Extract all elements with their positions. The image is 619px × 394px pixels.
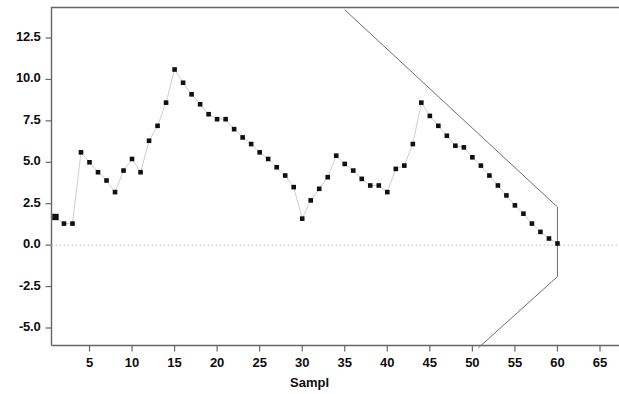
data-point-marker bbox=[402, 163, 407, 168]
data-point-marker bbox=[325, 175, 330, 180]
data-point-marker bbox=[394, 167, 399, 172]
data-point-marker bbox=[181, 80, 186, 85]
data-point-marker bbox=[453, 143, 458, 148]
data-point-marker bbox=[445, 133, 450, 138]
x-tick-label: 5 bbox=[70, 355, 110, 370]
x-tick-label: 65 bbox=[580, 355, 619, 370]
data-point-marker bbox=[479, 163, 484, 168]
data-point-marker bbox=[79, 150, 84, 155]
plot-frame bbox=[52, 8, 619, 346]
x-axis-title: Sampl bbox=[0, 375, 619, 390]
x-tick-label: 25 bbox=[240, 355, 280, 370]
data-point-marker bbox=[530, 221, 535, 226]
chart-plot-area bbox=[0, 0, 619, 394]
data-point-marker bbox=[147, 138, 152, 143]
data-point-marker bbox=[513, 203, 518, 208]
x-tick-label: 55 bbox=[495, 355, 535, 370]
x-tick-label: 40 bbox=[367, 355, 407, 370]
data-point-marker bbox=[155, 124, 160, 129]
data-point-marker bbox=[317, 187, 322, 192]
data-point-marker bbox=[504, 193, 509, 198]
x-tick-label: 30 bbox=[282, 355, 322, 370]
data-point-marker bbox=[257, 150, 262, 155]
data-point-marker bbox=[308, 198, 313, 203]
x-tick-label: 60 bbox=[537, 355, 577, 370]
data-point-marker bbox=[189, 92, 194, 97]
chart-figure: 12.510.07.55.02.50.0-2.5-5.0 51015202530… bbox=[0, 0, 619, 394]
data-point-marker bbox=[436, 124, 441, 129]
y-tick-label: 12.5 bbox=[16, 29, 41, 44]
data-point-marker bbox=[351, 168, 356, 173]
y-tick-label: 7.5 bbox=[23, 112, 40, 127]
data-point-marker bbox=[62, 221, 67, 226]
data-point-marker bbox=[385, 190, 390, 195]
data-point-marker bbox=[300, 216, 305, 221]
data-point-marker bbox=[249, 142, 254, 147]
data-point-marker bbox=[70, 221, 75, 226]
data-point-marker bbox=[266, 157, 271, 162]
data-point-marker bbox=[104, 178, 109, 183]
data-point-marker bbox=[223, 117, 228, 122]
data-point-marker bbox=[206, 112, 211, 117]
x-tick-label: 10 bbox=[112, 355, 152, 370]
data-point-marker bbox=[462, 145, 467, 150]
data-point-marker bbox=[274, 165, 279, 170]
y-tick-label: 2.5 bbox=[23, 195, 40, 210]
data-point-marker bbox=[164, 100, 169, 105]
data-point-marker bbox=[368, 183, 373, 188]
data-point-markers bbox=[52, 67, 559, 246]
data-point-marker bbox=[87, 160, 92, 165]
x-tick-label: 15 bbox=[155, 355, 195, 370]
data-point-marker bbox=[96, 170, 101, 175]
data-point-marker bbox=[428, 114, 433, 119]
y-tick-label: -5.0 bbox=[19, 319, 41, 334]
data-point-marker bbox=[283, 173, 288, 178]
data-point-marker bbox=[521, 211, 526, 216]
data-point-marker bbox=[52, 214, 58, 220]
data-point-marker bbox=[411, 142, 416, 147]
axis-ticks bbox=[46, 38, 601, 352]
y-tick-label: 5.0 bbox=[23, 153, 40, 168]
data-point-marker bbox=[470, 155, 475, 160]
data-point-marker bbox=[538, 230, 543, 235]
data-point-marker bbox=[291, 185, 296, 190]
data-point-marker bbox=[232, 127, 237, 132]
y-tick-label: -2.5 bbox=[19, 278, 41, 293]
data-point-marker bbox=[138, 170, 143, 175]
data-point-marker bbox=[215, 117, 220, 122]
data-point-marker bbox=[419, 100, 424, 105]
data-point-marker bbox=[376, 183, 381, 188]
data-point-marker bbox=[172, 67, 177, 72]
data-point-marker bbox=[496, 183, 501, 188]
x-tick-label: 35 bbox=[325, 355, 365, 370]
data-point-marker bbox=[121, 168, 126, 173]
y-tick-label: 10.0 bbox=[16, 70, 41, 85]
data-series-line bbox=[55, 69, 557, 243]
data-point-marker bbox=[130, 157, 135, 162]
data-point-marker bbox=[113, 190, 118, 195]
data-point-marker bbox=[240, 135, 245, 140]
envelope-bounds bbox=[345, 10, 558, 348]
data-point-marker bbox=[547, 236, 552, 241]
data-point-marker bbox=[342, 162, 347, 167]
data-point-marker bbox=[334, 153, 339, 158]
x-tick-label: 45 bbox=[410, 355, 450, 370]
x-tick-label: 20 bbox=[197, 355, 237, 370]
x-tick-label: 50 bbox=[452, 355, 492, 370]
y-tick-label: 0.0 bbox=[23, 236, 40, 251]
data-point-marker bbox=[359, 177, 364, 182]
data-point-marker bbox=[555, 241, 560, 246]
data-point-marker bbox=[198, 102, 203, 107]
data-point-marker bbox=[487, 173, 492, 178]
